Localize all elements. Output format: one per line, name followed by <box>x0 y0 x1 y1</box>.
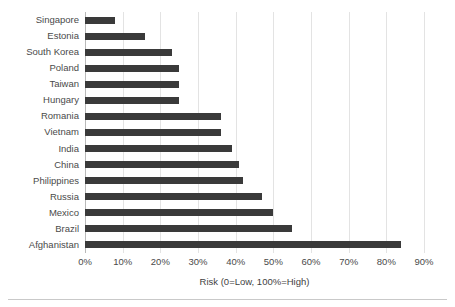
bar-row <box>85 92 424 108</box>
bar <box>85 177 243 184</box>
category-axis-labels: SingaporeEstoniaSouth KoreaPolandTaiwanH… <box>0 12 79 253</box>
category-label: Mexico <box>49 205 79 221</box>
bar-row <box>85 76 424 92</box>
x-axis-title: Risk (0=Low, 100%=High) <box>85 276 424 287</box>
bar-row <box>85 28 424 44</box>
bars-layer <box>85 12 424 253</box>
category-label: China <box>54 157 79 173</box>
category-label: Estonia <box>47 28 79 44</box>
bar <box>85 145 232 152</box>
bar-row <box>85 157 424 173</box>
value-tick-label: 80% <box>377 256 396 267</box>
value-tick-label: 60% <box>301 256 320 267</box>
bar-row <box>85 205 424 221</box>
value-tick-label: 0% <box>78 256 92 267</box>
bar <box>85 193 262 200</box>
category-label: India <box>58 141 79 157</box>
bar-row <box>85 60 424 76</box>
bar-chart: SingaporeEstoniaSouth KoreaPolandTaiwanH… <box>0 0 455 307</box>
value-tick-label: 40% <box>226 256 245 267</box>
category-label: Russia <box>50 189 79 205</box>
footer-divider <box>8 299 447 300</box>
category-label: Afghanistan <box>29 237 79 253</box>
bar-row <box>85 12 424 28</box>
value-axis-labels: 0%10%20%30%40%50%60%70%80%90% <box>85 256 424 272</box>
category-label: Philippines <box>33 173 79 189</box>
bar <box>85 97 179 104</box>
value-tick-label: 70% <box>339 256 358 267</box>
bar-row <box>85 108 424 124</box>
category-label: Poland <box>49 60 79 76</box>
value-tick-label: 90% <box>414 256 433 267</box>
category-label: Romania <box>41 108 79 124</box>
bar <box>85 225 292 232</box>
plot-area <box>85 12 424 253</box>
bar-row <box>85 141 424 157</box>
category-label: Hungary <box>43 92 79 108</box>
bar <box>85 65 179 72</box>
value-tick-label: 50% <box>264 256 283 267</box>
category-label: Brazil <box>55 221 79 237</box>
bar-row <box>85 237 424 253</box>
bar-row <box>85 221 424 237</box>
bar-row <box>85 124 424 140</box>
bar <box>85 161 239 168</box>
category-label: Vietnam <box>44 124 79 140</box>
bar <box>85 209 273 216</box>
bar-row <box>85 44 424 60</box>
value-tick-label: 30% <box>188 256 207 267</box>
category-label: Singapore <box>36 12 79 28</box>
value-tick-label: 20% <box>151 256 170 267</box>
category-label: Taiwan <box>49 76 79 92</box>
bar <box>85 33 145 40</box>
bar <box>85 81 179 88</box>
value-tick-label: 10% <box>113 256 132 267</box>
bar <box>85 113 221 120</box>
bar <box>85 241 401 248</box>
bar <box>85 17 115 24</box>
bar-row <box>85 173 424 189</box>
gridline <box>424 12 425 253</box>
category-label: South Korea <box>26 44 79 60</box>
bar <box>85 49 172 56</box>
bar-row <box>85 189 424 205</box>
bar <box>85 129 221 136</box>
